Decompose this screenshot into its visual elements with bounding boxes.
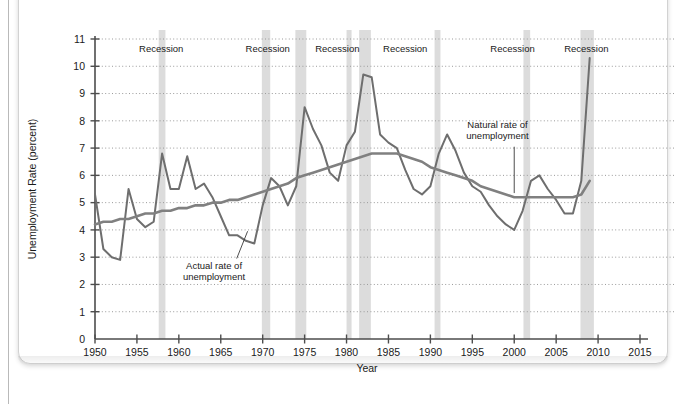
recession-label: Recession: [383, 43, 427, 54]
recession-label: Recession: [246, 43, 290, 54]
natural-rate-line: [95, 154, 590, 225]
x-axis-tick-label: 2000: [503, 346, 527, 358]
natural-rate-annotation-line1: Natural rate of: [467, 119, 528, 130]
recession-label: Recession: [490, 43, 534, 54]
recession-label: Recession: [139, 43, 183, 54]
x-axis-title: Year: [356, 362, 378, 374]
recession-label: Recession: [564, 43, 608, 54]
x-axis-tick-label: 1950: [83, 346, 107, 358]
x-axis-tick-label: 1965: [209, 346, 233, 358]
y-axis-tick-label: 11: [74, 33, 85, 45]
x-axis-tick-label: 1980: [335, 346, 359, 358]
y-axis-tick-label: 1: [79, 306, 85, 318]
y-axis-tick-label: 9: [79, 87, 85, 99]
x-axis-tick-label: 2005: [544, 346, 568, 358]
y-axis-tick-label: 3: [79, 251, 85, 263]
recession-label: Recession: [315, 43, 359, 54]
y-axis-title: Unemployment Rate (percent): [26, 119, 38, 260]
x-axis-tick-label: 1995: [461, 346, 485, 358]
y-axis-tick-label: 6: [79, 169, 85, 181]
y-axis-tick-label: 8: [79, 115, 85, 127]
y-axis-tick-label: 5: [79, 196, 85, 208]
x-axis-tick-label: 1970: [251, 346, 275, 358]
y-axis-tick-label: 7: [79, 142, 85, 154]
actual-rate-annotation-line2: unemployment: [183, 271, 246, 282]
y-axis-tick-label: 10: [73, 60, 85, 72]
unemployment-rate-chart: 01234567891011 1950195519601965197019751…: [0, 0, 683, 404]
x-axis-tick-label: 1990: [419, 346, 443, 358]
recession-bands: [159, 30, 594, 339]
x-axis-tick-label: 1985: [377, 346, 401, 358]
y-axis-tick-label: 0: [79, 333, 85, 345]
x-axis-tick-label: 1955: [125, 346, 149, 358]
actual-rate-line: [95, 58, 590, 260]
x-axis-tick-label: 1975: [293, 346, 317, 358]
y-axis: 01234567891011: [73, 33, 99, 345]
x-axis-tick-label: 2015: [628, 346, 652, 358]
recession-band: [435, 30, 441, 339]
actual-rate-annotation-line1: Actual rate of: [186, 260, 242, 271]
y-axis-tick-label: 4: [79, 224, 85, 236]
recession-band: [159, 30, 166, 339]
y-axis-tick-label: 2: [79, 278, 85, 290]
x-axis-tick-label: 1960: [167, 346, 191, 358]
x-axis-tick-label: 2010: [586, 346, 610, 358]
series-lines: [95, 58, 590, 260]
recession-band: [347, 30, 352, 339]
chart-svg: 01234567891011 1950195519601965197019751…: [0, 0, 683, 404]
recession-labels: RecessionRecessionRecessionRecessionRece…: [139, 43, 608, 54]
natural-rate-annotation-line2: unemployment: [466, 130, 529, 141]
